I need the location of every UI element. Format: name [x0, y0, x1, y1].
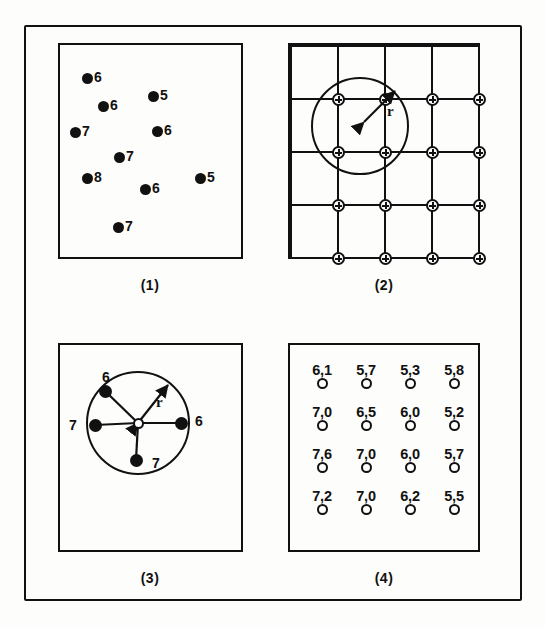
sample-point: [195, 173, 206, 184]
interpolated-grid-cell: 6,0: [390, 447, 430, 473]
neighbour-node-value: 6: [195, 413, 203, 429]
radius-arrow-panel-2: [290, 45, 482, 261]
interpolated-grid-cell: 5,7: [434, 447, 474, 473]
sample-point-value: 6: [94, 72, 102, 83]
interpolated-grid-cell: 7,0: [302, 405, 342, 431]
interpolated-value: 6,0: [390, 405, 430, 419]
grid-node-ring: [361, 420, 372, 431]
interpolated-value: 6,0: [390, 447, 430, 461]
grid-node-ring: [449, 462, 460, 473]
interpolated-grid-cell: 5,7: [346, 363, 386, 389]
interpolated-value: 5,8: [434, 363, 474, 377]
interpolated-grid-cell: 5,3: [390, 363, 430, 389]
panel-1-scatter-points: 6567678567: [58, 43, 243, 259]
neighbour-node: [175, 417, 188, 430]
interpolated-value: 7,0: [346, 447, 386, 461]
sample-point-value: 6: [110, 100, 118, 111]
sample-point-value: 5: [207, 172, 215, 183]
grid-node-ring: [405, 462, 416, 473]
neighbour-node-value: 7: [69, 417, 77, 433]
sample-point: [113, 222, 124, 233]
grid-node-ring: [405, 504, 416, 515]
sample-point: [98, 101, 109, 112]
interpolated-grid-cell: 5,8: [434, 363, 474, 389]
sample-point-value: 6: [152, 183, 160, 194]
grid-node-ring: [449, 378, 460, 389]
sample-point-value: 7: [126, 151, 134, 162]
interpolated-grid-cell: 6,1: [302, 363, 342, 389]
sample-point: [82, 173, 93, 184]
sample-point-value: 5: [160, 90, 168, 101]
interpolated-value: 5,3: [390, 363, 430, 377]
interpolated-value: 5,2: [434, 405, 474, 419]
grid-node-ring: [361, 378, 372, 389]
sample-point: [82, 73, 93, 84]
neighbour-node: [99, 385, 112, 398]
grid-node-ring: [405, 420, 416, 431]
neighbour-node: [89, 419, 102, 432]
sample-point: [140, 184, 151, 195]
sample-point: [152, 126, 163, 137]
interpolated-value: 6,1: [302, 363, 342, 377]
sample-point: [114, 152, 125, 163]
grid-node-ring: [317, 420, 328, 431]
interpolated-value: 7,0: [302, 405, 342, 419]
grid-node-ring: [317, 462, 328, 473]
panel-3-neighbour-star: 6767 r: [58, 343, 243, 552]
neighbour-spokes: [60, 345, 245, 554]
interpolated-value: 7,6: [302, 447, 342, 461]
interpolated-value: 5,5: [434, 489, 474, 503]
panel-3-caption: (3): [120, 570, 180, 586]
interpolated-grid-cell: 7,6: [302, 447, 342, 473]
panel-2-caption: (2): [354, 277, 414, 293]
interpolation-target-node: [133, 418, 144, 429]
sample-point: [148, 91, 159, 102]
interpolated-value: 6,2: [390, 489, 430, 503]
neighbour-node-value: 6: [102, 369, 110, 385]
grid-node-ring: [449, 504, 460, 515]
interpolated-value: 7,2: [302, 489, 342, 503]
neighbour-node-value: 7: [152, 455, 160, 471]
panel-4-caption: (4): [354, 570, 414, 586]
panel-2-regular-grid: r: [288, 43, 480, 259]
scanned-page: 6567678567 (1) r (2): [0, 0, 546, 627]
interpolated-grid-cell: 6,0: [390, 405, 430, 431]
neighbour-node: [130, 454, 143, 467]
interpolated-grid-cell: 5,5: [434, 489, 474, 515]
grid-node-ring: [317, 378, 328, 389]
grid-node-ring: [361, 462, 372, 473]
grid-node-ring: [405, 378, 416, 389]
panel-1-caption: (1): [120, 277, 180, 293]
interpolated-grid-cell: 5,2: [434, 405, 474, 431]
grid-node-ring: [361, 504, 372, 515]
sample-point-value: 6: [164, 125, 172, 136]
interpolated-grid-cell: 7,0: [346, 447, 386, 473]
radius-label-panel-3: r: [156, 394, 163, 411]
sample-point-value: 8: [94, 172, 102, 183]
sample-point: [70, 127, 81, 138]
sample-point-value: 7: [125, 221, 133, 232]
sample-point-value: 7: [82, 126, 90, 137]
grid-node-ring: [317, 504, 328, 515]
interpolated-grid-cell: 6,5: [346, 405, 386, 431]
interpolated-value: 5,7: [434, 447, 474, 461]
radius-label-panel-2: r: [387, 103, 394, 120]
grid-node-ring: [449, 420, 460, 431]
panel-4-interpolated-values: 6,15,75,35,87,06,56,05,27,67,06,05,77,27…: [288, 343, 480, 552]
interpolated-value: 6,5: [346, 405, 386, 419]
interpolated-value: 7,0: [346, 489, 386, 503]
interpolated-grid-cell: 7,0: [346, 489, 386, 515]
interpolated-grid-cell: 7,2: [302, 489, 342, 515]
interpolated-value: 5,7: [346, 363, 386, 377]
interpolated-grid-cell: 6,2: [390, 489, 430, 515]
